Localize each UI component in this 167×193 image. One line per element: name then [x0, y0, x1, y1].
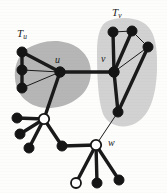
graph-node-c1	[39, 114, 49, 124]
edge-w-w1	[76, 145, 96, 183]
graph-node-tv2	[127, 26, 137, 36]
graph-node-w2	[92, 178, 102, 188]
label-node-w: w	[108, 138, 115, 148]
graph-node-tu3	[17, 83, 27, 93]
edge-v-tv1	[113, 32, 114, 72]
graph-node-tu2	[17, 65, 27, 75]
graph-figure: Tu Tv u v w	[0, 0, 167, 193]
graph-node-v	[109, 67, 119, 77]
graph-node-u	[55, 67, 65, 77]
graph-node-tv3	[143, 42, 153, 52]
label-subtree-tv-subscript: v	[118, 11, 121, 20]
label-node-u: u	[55, 55, 60, 65]
graph-node-c1a	[12, 113, 22, 123]
label-subtree-tv: Tv	[112, 7, 121, 18]
graph-node-c1b	[15, 129, 25, 139]
graph-node-w3	[114, 175, 124, 185]
graph-node-w	[91, 140, 101, 150]
label-subtree-tu: Tu	[17, 28, 27, 39]
graph-node-tv1	[108, 27, 118, 37]
graph-node-c1c	[24, 143, 34, 153]
graph-node-tu1	[17, 47, 27, 57]
label-node-v: v	[101, 54, 105, 64]
edge-w-w3	[96, 145, 119, 180]
graph-node-c2	[57, 141, 67, 151]
graph-node-tv4	[113, 107, 123, 117]
graph-node-w1	[71, 178, 81, 188]
label-subtree-tu-subscript: u	[23, 32, 27, 41]
